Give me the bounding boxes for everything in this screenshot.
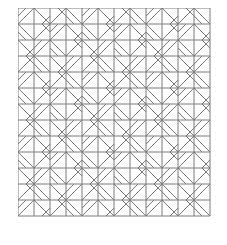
pattern-lines xyxy=(18,8,210,216)
geometric-tile-pattern xyxy=(18,8,212,222)
